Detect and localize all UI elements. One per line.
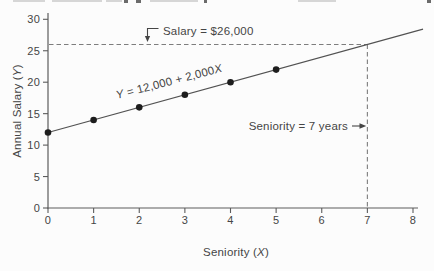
y-tick-label: 15 [27, 108, 40, 120]
x-tick-label: 5 [273, 214, 279, 226]
salary-leader-line [148, 29, 159, 38]
x-tick-label: 6 [319, 214, 325, 226]
x-tick-label: 8 [410, 214, 416, 226]
y-axis-title: Annual Salary (Y) [11, 64, 23, 158]
y-tick-label: 30 [27, 13, 40, 25]
figure: 051015202530012345678Seniority (X)Annual… [0, 0, 434, 271]
y-tick-label: 10 [27, 139, 40, 151]
x-axis-title: Seniority (X) [203, 246, 269, 258]
data-point [136, 104, 143, 111]
seniority-arrowhead-right-icon [360, 123, 367, 129]
x-tick-label: 4 [227, 214, 233, 226]
salary-arrowhead-down-icon [145, 36, 150, 42]
data-point [227, 79, 234, 86]
data-point [90, 117, 97, 124]
salary-seniority-scatter-plot: 051015202530012345678Seniority (X)Annual… [0, 0, 434, 271]
y-tick-label: 5 [34, 171, 40, 183]
seniority-annotation-label: Seniority = 7 years [249, 120, 348, 132]
y-tick-label: 20 [27, 76, 40, 88]
x-tick-label: 2 [136, 214, 142, 226]
x-tick-label: 0 [45, 214, 51, 226]
data-point [45, 129, 52, 136]
x-tick-label: 1 [90, 214, 96, 226]
regression-equation-label: Y = 12,000 + 2,000X [114, 62, 224, 101]
salary-annotation-label: Salary = $26,000 [163, 25, 253, 37]
y-tick-label: 25 [27, 45, 40, 57]
x-tick-label: 3 [182, 214, 188, 226]
data-point [182, 91, 189, 98]
data-point [273, 66, 280, 73]
y-tick-label: 0 [34, 202, 40, 214]
x-tick-label: 7 [364, 214, 370, 226]
